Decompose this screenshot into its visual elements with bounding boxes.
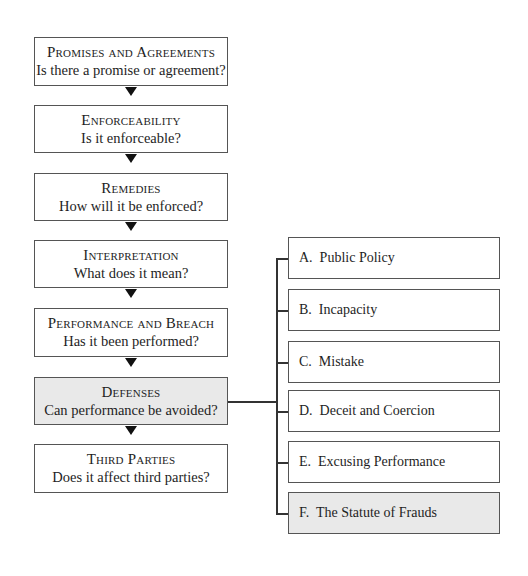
down-arrow-icon (125, 222, 137, 231)
step-box-interpretation: InterpretationWhat does it mean? (34, 240, 228, 288)
step-box-promises-and-agreements: Promises and AgreementsIs there a promis… (34, 37, 228, 86)
down-arrow-icon (125, 426, 137, 435)
step-title: Defenses (35, 383, 227, 401)
subtopic-box: B. Incapacity (288, 289, 500, 331)
subtopic-label: E. Excusing Performance (299, 454, 445, 470)
subtopic-box: A. Public Policy (288, 237, 500, 279)
step-box-performance-and-breach: Performance and BreachHas it been perfor… (34, 308, 228, 357)
step-question: Is there a promise or agreement? (35, 61, 227, 80)
step-title: Interpretation (35, 246, 227, 264)
step-title: Promises and Agreements (35, 43, 227, 61)
step-title: Third Parties (35, 450, 227, 468)
bracket-line (276, 258, 278, 514)
branch-line (276, 513, 288, 515)
step-question: Has it been performed? (35, 332, 227, 351)
down-arrow-icon (125, 87, 137, 96)
step-title: Remedies (35, 179, 227, 197)
branch-line (276, 411, 288, 413)
branch-line (276, 310, 288, 312)
connector-line (228, 401, 277, 403)
step-box-remedies: RemediesHow will it be enforced? (34, 173, 228, 221)
subtopic-label: A. Public Policy (299, 250, 395, 266)
subtopic-label: C. Mistake (299, 354, 364, 370)
down-arrow-icon (125, 289, 137, 298)
down-arrow-icon (125, 358, 137, 367)
step-title: Performance and Breach (35, 314, 227, 332)
step-title: Enforceability (35, 111, 227, 129)
subtopic-label: B. Incapacity (299, 302, 377, 318)
subtopic-box: F. The Statute of Frauds (288, 492, 500, 534)
subtopic-label: F. The Statute of Frauds (299, 505, 437, 521)
branch-line (276, 258, 288, 260)
step-question: What does it mean? (35, 264, 227, 283)
subtopic-box: E. Excusing Performance (288, 441, 500, 483)
step-question: Does it affect third parties? (35, 468, 227, 487)
step-box-third-parties: Third PartiesDoes it affect third partie… (34, 444, 228, 493)
subtopic-label: D. Deceit and Coercion (299, 403, 435, 419)
step-question: Is it enforceable? (35, 129, 227, 148)
step-question: How will it be enforced? (35, 197, 227, 216)
branch-line (276, 462, 288, 464)
step-box-defenses: DefensesCan performance be avoided? (34, 377, 228, 425)
subtopic-box: C. Mistake (288, 341, 500, 383)
down-arrow-icon (125, 154, 137, 163)
step-box-enforceability: EnforceabilityIs it enforceable? (34, 105, 228, 153)
step-question: Can performance be avoided? (35, 401, 227, 420)
branch-line (276, 362, 288, 364)
subtopic-box: D. Deceit and Coercion (288, 390, 500, 432)
